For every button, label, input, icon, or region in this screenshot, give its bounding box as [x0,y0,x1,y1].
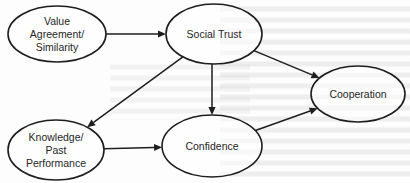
node-label: Value [44,15,70,27]
edge-social_trust-to-cooperation [254,51,320,79]
node-knowledge: Knowledge/PastPerformance [8,120,104,180]
trust-confidence-cooperation-diagram: ValueAgreement/SimilaritySocial TrustCoo… [0,0,410,183]
node-label: Cooperation [329,88,386,100]
edge-line [254,51,312,75]
node-confidence: Confidence [162,115,262,177]
nodes-layer: ValueAgreement/SimilaritySocial TrustCoo… [8,4,405,180]
arrowhead-icon [309,108,318,115]
node-value-agreement: ValueAgreement/Similarity [8,6,106,62]
node-label: Past [45,144,66,156]
edge-social_trust-to-confidence [208,64,215,115]
node-label: Knowledge/ [29,131,84,143]
node-label: Agreement/ [30,28,84,40]
node-label: Performance [26,157,86,169]
edge-value_agreement-to-social_trust [106,30,166,37]
node-label: Confidence [185,140,238,152]
arrowhead-icon [158,30,166,37]
node-social-trust: Social Trust [166,4,262,64]
node-cooperation: Cooperation [311,66,405,122]
edge-confidence-to-cooperation [255,108,317,131]
arrowhead-icon [87,120,96,128]
edge-line [104,147,154,148]
diagram-canvas: ValueAgreement/SimilaritySocial TrustCoo… [0,0,410,183]
arrowhead-icon [208,107,215,115]
edge-knowledge-to-confidence [104,144,162,151]
edge-social_trust-to-knowledge [87,57,183,127]
node-label: Similarity [36,41,79,53]
edge-line [255,111,310,131]
arrowhead-icon [154,144,162,151]
node-label: Social Trust [187,28,242,40]
edge-line [94,57,183,123]
